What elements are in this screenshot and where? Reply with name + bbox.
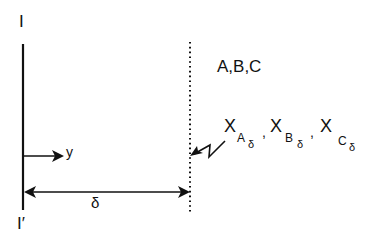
y-axis-label: y bbox=[66, 145, 73, 159]
zigzag-arrow-shaft bbox=[194, 141, 225, 157]
comma: , bbox=[262, 125, 266, 139]
interface-top-label: I bbox=[19, 13, 24, 30]
x-symbol: X bbox=[320, 117, 332, 135]
subscript-delta: δ bbox=[349, 141, 355, 153]
subscript-b: B bbox=[285, 131, 293, 145]
subscript-delta: δ bbox=[297, 138, 303, 150]
comma: , bbox=[310, 125, 314, 139]
x-symbol: X bbox=[270, 117, 282, 135]
subscript-c: C bbox=[338, 134, 347, 148]
zigzag-arrow-head bbox=[190, 146, 203, 156]
subscript-a: A bbox=[237, 131, 245, 145]
diagram-canvas bbox=[0, 0, 371, 248]
subscript-delta: δ bbox=[248, 138, 254, 150]
delta-label: δ bbox=[91, 195, 99, 210]
interface-bottom-label: I′ bbox=[17, 215, 25, 232]
x-symbol: X bbox=[224, 117, 236, 135]
species-label: A,B,C bbox=[217, 58, 261, 75]
